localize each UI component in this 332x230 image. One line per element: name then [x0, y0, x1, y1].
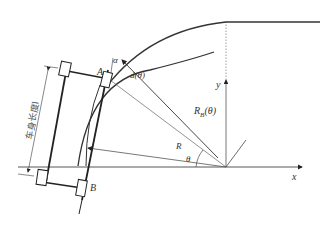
- label-theta: θ: [186, 154, 191, 164]
- wheel-rear-right: [76, 179, 88, 196]
- wheel-front-left: [59, 61, 72, 77]
- wheel-rear-left: [36, 169, 48, 185]
- radial-line-a: [110, 80, 226, 167]
- theta-arc: [196, 150, 203, 167]
- label-r: R: [175, 141, 182, 151]
- label-rb-theta: RB(θ): [193, 105, 217, 119]
- label-d-theta: d(θ): [130, 70, 145, 80]
- end-tick: [226, 140, 246, 167]
- radius-r-line: [88, 148, 226, 167]
- label-x: x: [291, 171, 297, 182]
- diagram-canvas: A B α d(θ) R θ x y RB(θ) 车身长度l: [0, 0, 332, 230]
- label-y: y: [215, 79, 221, 90]
- label-b: B: [90, 182, 96, 193]
- label-alpha: α: [113, 55, 118, 65]
- label-a: A: [96, 66, 104, 77]
- dim-ext-top: [44, 66, 58, 68]
- vehicle-left-side: [46, 72, 66, 182]
- vehicle-right-ext: [79, 200, 82, 214]
- vehicle-rear-axle: [42, 182, 82, 188]
- dim-ext-bottom: [18, 174, 34, 176]
